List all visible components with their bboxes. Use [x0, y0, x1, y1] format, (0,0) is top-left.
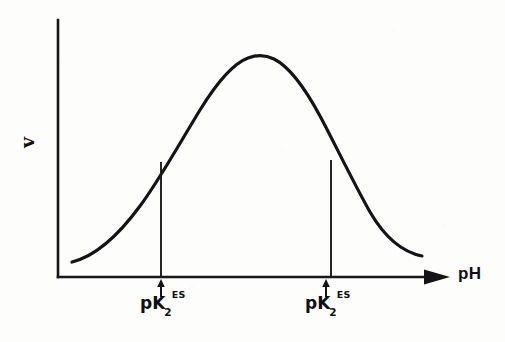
pk-subscript-left: 2 — [164, 306, 171, 318]
pk-marker-label-left: pK2ES — [140, 294, 187, 314]
y-axis-label: v — [18, 137, 37, 148]
pk-marker-label-right: pK2ES — [305, 294, 352, 314]
x-axis-label: pH — [458, 265, 481, 282]
figure-container: pH v pK2ES pK2ES — [0, 0, 505, 342]
tick-arrow-left-head — [157, 279, 165, 287]
pk-base-left: pK — [140, 293, 165, 313]
x-axis-arrowhead — [424, 270, 450, 285]
pk-base-right: pK — [305, 293, 330, 313]
velocity-curve — [72, 56, 422, 262]
ph-rate-profile-chart — [0, 0, 505, 342]
pk-subscript-right: 2 — [329, 306, 336, 318]
pk-superscript-left: ES — [172, 289, 186, 300]
pk-superscript-right: ES — [337, 289, 351, 300]
tick-arrow-right-head — [322, 279, 330, 287]
